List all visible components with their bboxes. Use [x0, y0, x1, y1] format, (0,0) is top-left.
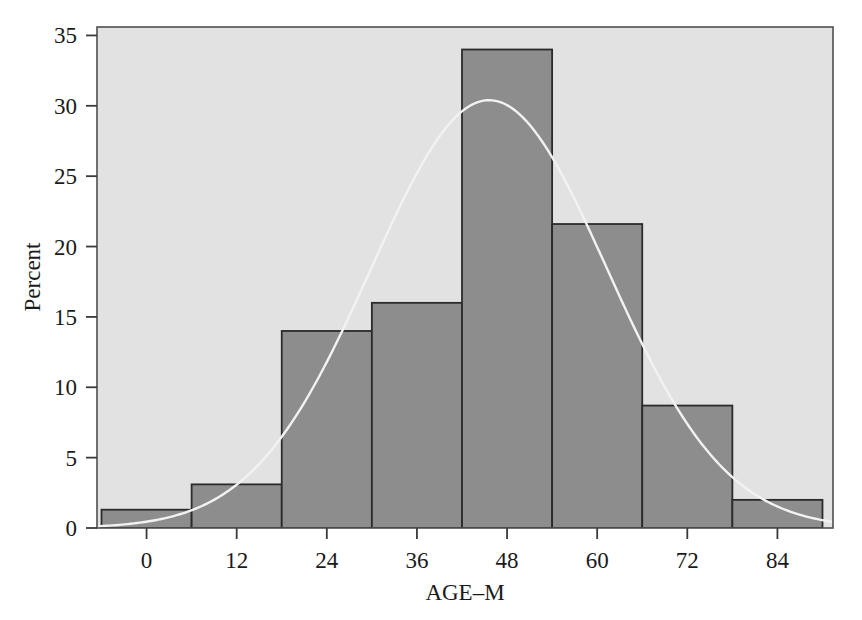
x-axis-tick-label: 0	[141, 548, 153, 573]
y-axis-tick-label: 0	[66, 516, 78, 541]
x-axis-tick-label: 12	[225, 548, 248, 573]
y-axis-tick-label: 35	[54, 23, 77, 48]
y-axis-tick-label: 20	[54, 235, 77, 260]
x-axis-tick-label: 84	[766, 548, 790, 573]
x-axis-tick-label: 36	[405, 548, 428, 573]
histogram-bar	[552, 224, 642, 528]
x-axis-title: AGE–M	[425, 580, 504, 605]
chart-canvas: 05101520253035 012243648607284 Percent A…	[0, 0, 862, 620]
x-axis-tick-label: 48	[496, 548, 519, 573]
x-axis-tick-label: 24	[315, 548, 339, 573]
x-axis-tick-label: 72	[676, 548, 699, 573]
histogram-bar	[372, 303, 462, 528]
y-axis-tick-label: 10	[54, 375, 77, 400]
y-axis-tick-label: 5	[66, 446, 78, 471]
y-axis-title: Percent	[20, 242, 45, 312]
x-axis-tick-label: 60	[586, 548, 609, 573]
y-axis-tick-label: 25	[54, 164, 77, 189]
histogram-figure: 05101520253035 012243648607284 Percent A…	[0, 0, 862, 620]
histogram-bar	[192, 484, 282, 528]
y-axis-tick-label: 30	[54, 94, 77, 119]
plot-area	[97, 27, 833, 528]
y-axis-tick-label: 15	[54, 305, 77, 330]
histogram-bar	[732, 500, 822, 528]
histogram-bar	[462, 50, 552, 528]
